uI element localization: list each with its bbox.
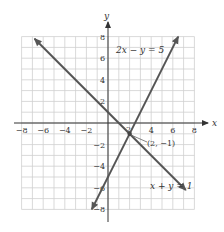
x-tick-label: 4 bbox=[149, 126, 154, 135]
y-axis-label: y bbox=[103, 11, 110, 21]
x-tick-label: −6 bbox=[37, 126, 49, 135]
y-tick-label: 6 bbox=[100, 54, 105, 63]
y-tick-label: −2 bbox=[93, 141, 105, 150]
x-axis-label: x bbox=[212, 118, 217, 128]
intersection-label: (2, −1) bbox=[147, 139, 175, 148]
y-tick-label: −8 bbox=[93, 205, 105, 214]
y-tick-label: 4 bbox=[100, 76, 105, 85]
line-x-plus-y-eq-1 bbox=[35, 39, 186, 190]
x-tick-label: 8 bbox=[192, 126, 197, 135]
x-tick-label: −8 bbox=[16, 126, 28, 135]
x-tick-label: −4 bbox=[59, 126, 71, 135]
y-tick-label: −4 bbox=[93, 162, 105, 171]
line2-label: x + y = 1 bbox=[150, 181, 192, 191]
x-tick-label: 6 bbox=[170, 126, 175, 135]
x-tick-label: −2 bbox=[81, 126, 93, 135]
line1-label: 2x − y = 5 bbox=[115, 45, 164, 55]
y-tick-label: 8 bbox=[100, 33, 105, 42]
coordinate-plane-chart: x y −8−6−4−246828642−2−4−6−8 2x − y = 5 … bbox=[0, 0, 224, 232]
